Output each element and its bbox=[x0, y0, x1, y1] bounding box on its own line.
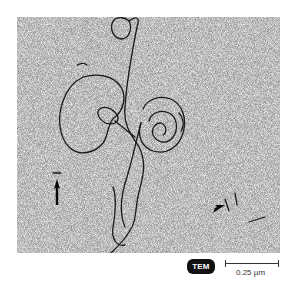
tem-badge: TEM bbox=[187, 259, 215, 274]
scale-bar bbox=[225, 260, 279, 266]
scale-bar-label: 0.25 µm bbox=[236, 268, 265, 277]
micrograph-image bbox=[17, 17, 280, 253]
scale-bar-tick-right bbox=[278, 260, 279, 267]
scale-bar-line bbox=[225, 263, 279, 264]
tem-micrograph bbox=[17, 17, 280, 253]
scale-bar-tick-left bbox=[225, 260, 226, 267]
